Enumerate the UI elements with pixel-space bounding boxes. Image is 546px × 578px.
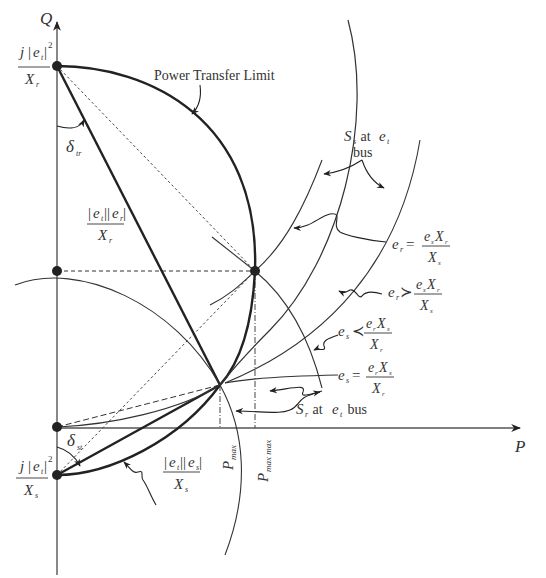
lower-chord-squiggle-arrow	[124, 462, 156, 505]
ss-bus-arrow-left	[324, 160, 362, 174]
svg-text:|: |	[88, 205, 91, 221]
delta-tr-arc	[57, 120, 84, 128]
ss-bus-arrow-right	[362, 160, 384, 188]
svg-text:||: ||	[104, 205, 110, 221]
svg-text:bus: bus	[353, 145, 372, 160]
svg-text:|: |	[28, 458, 31, 474]
q-axis-label: Q	[40, 9, 52, 28]
svg-text:2: 2	[48, 454, 53, 464]
svg-text:|: |	[44, 44, 47, 60]
svg-text:max max: max max	[263, 440, 273, 472]
svg-text:||: ||	[180, 454, 186, 470]
svg-text:2: 2	[48, 40, 53, 50]
svg-text:j: j	[18, 44, 24, 60]
svg-text:r: r	[382, 390, 385, 398]
svg-text:e: e	[388, 284, 395, 300]
upper-chord-label: | e t || e r | X r	[87, 205, 126, 245]
svg-text:e: e	[169, 454, 176, 470]
delta-tr-label: δ tr	[66, 137, 82, 158]
svg-text:r: r	[445, 238, 448, 246]
svg-text:=: =	[406, 236, 414, 252]
svg-text:at: at	[309, 402, 326, 417]
svg-text:X: X	[24, 71, 35, 87]
p-axis-label: P	[514, 437, 525, 456]
er-eq-short-line	[212, 237, 255, 271]
power-transfer-limit-label: Power Transfer Limit	[154, 68, 275, 83]
svg-text:e: e	[338, 323, 345, 339]
svg-text:at: at	[357, 129, 374, 144]
svg-text:s: s	[430, 307, 433, 315]
lower-chord-line	[57, 385, 220, 475]
condition-es-equal-label: e s = e r X s X r	[338, 360, 394, 398]
svg-text:X: X	[434, 229, 444, 244]
svg-text:X: X	[426, 277, 436, 292]
svg-text:tr: tr	[76, 149, 82, 158]
ss-inner-arc	[210, 160, 322, 305]
svg-text:r: r	[400, 245, 404, 254]
condition-er-equal-label: e r = e s X r X s	[392, 229, 450, 267]
svg-text:st: st	[77, 443, 83, 452]
svg-text:|: |	[123, 205, 126, 221]
svg-text:δ: δ	[66, 137, 75, 156]
svg-text:bus: bus	[344, 402, 367, 417]
svg-text:e: e	[332, 401, 339, 417]
svg-text:e: e	[33, 458, 40, 474]
svg-text:X: X	[369, 337, 379, 352]
p-max-max-label: P max max	[255, 440, 273, 483]
svg-text:P: P	[220, 461, 236, 471]
top-point-dot	[52, 61, 62, 71]
svg-text:≻: ≻	[400, 284, 413, 300]
diagonal-dotted-line-top	[57, 66, 255, 271]
svg-text:|: |	[164, 454, 167, 470]
svg-text:s: s	[423, 286, 426, 294]
svg-text:X: X	[23, 482, 34, 498]
delta-st-label: δ st	[67, 431, 83, 452]
svg-text:r: r	[109, 236, 113, 245]
es-lt-squiggle-arrow	[314, 335, 338, 350]
svg-text:e: e	[392, 236, 399, 252]
svg-text:e: e	[338, 367, 345, 383]
svg-text:e: e	[112, 205, 119, 221]
svg-text:≺: ≺	[352, 323, 365, 339]
sr-at-et-bus-label: S r at e t bus	[296, 401, 367, 419]
top-point-label: j | e t | 2 X r	[18, 40, 53, 89]
condition-es-less-label: e s ≺ e r X s X r	[338, 316, 392, 354]
ss-at-et-bus-label: S s at e t bus	[344, 128, 390, 160]
power-circle-diagram: Q P j | e t | 2 X	[0, 0, 546, 578]
mid-axis-dot	[52, 266, 62, 276]
svg-text:s: s	[438, 259, 441, 267]
svg-text:s: s	[389, 369, 392, 377]
svg-text:s: s	[346, 376, 349, 385]
svg-text:t: t	[387, 137, 390, 146]
svg-text:P: P	[255, 473, 271, 483]
svg-text:t: t	[340, 410, 343, 419]
svg-text:s: s	[387, 325, 390, 333]
condition-er-greater-label: e r ≻ e s X r X s	[388, 277, 442, 315]
svg-text:e: e	[424, 229, 430, 244]
svg-text:|: |	[199, 454, 202, 470]
svg-text:X: X	[376, 316, 386, 331]
svg-text:X: X	[419, 298, 429, 313]
svg-text:|: |	[44, 458, 47, 474]
sr-bus-arrow-lower-tip	[236, 410, 290, 412]
er-eq-squiggle-arrow	[294, 214, 386, 242]
lower-chord-label: | e t || e s | X s	[163, 454, 202, 494]
svg-text:S: S	[296, 401, 304, 417]
p-max-label: P max	[220, 445, 238, 471]
svg-text:r: r	[437, 286, 440, 294]
svg-text:r: r	[375, 369, 378, 377]
svg-text:e: e	[93, 205, 100, 221]
svg-text:r: r	[380, 346, 383, 354]
svg-text:X: X	[427, 250, 437, 265]
svg-text:=: =	[352, 367, 360, 383]
svg-text:s: s	[346, 332, 349, 341]
svg-text:e: e	[366, 316, 372, 331]
max-power-intersection-dot	[250, 266, 260, 276]
sr-inner-arc	[255, 271, 322, 388]
svg-text:s: s	[185, 485, 188, 494]
svg-text:e: e	[33, 44, 40, 60]
svg-text:X: X	[378, 360, 388, 375]
svg-text:r: r	[373, 325, 376, 333]
svg-text:e: e	[379, 128, 386, 144]
svg-text:X: X	[371, 381, 381, 396]
